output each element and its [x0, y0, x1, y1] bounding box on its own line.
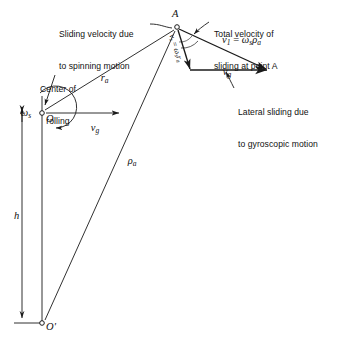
label-vg-lower: vg	[80, 112, 99, 146]
label-vg-upper: vg	[212, 56, 231, 90]
label-omega-s-sub: s	[28, 110, 31, 119]
equation-total-velocity: v1 = ωsρa	[222, 35, 261, 48]
point-label-o: O	[46, 114, 54, 125]
label-h: h	[14, 211, 19, 222]
callout-lateral-sliding-line1: Lateral sliding due	[238, 107, 318, 118]
label-omega-s: ωs	[10, 97, 31, 131]
node-oprime-marker	[40, 321, 45, 326]
label-vg-upper-sub: g	[227, 69, 231, 78]
point-label-oprime: O'	[46, 322, 56, 333]
label-ra: ra	[90, 62, 109, 96]
leader-total-velocity	[194, 22, 209, 34]
callout-lateral-sliding-line2: to gyroscopic motion	[238, 139, 318, 150]
label-rho-a-sub: a	[133, 158, 137, 167]
point-label-a: A	[172, 9, 178, 20]
node-a-marker	[175, 25, 180, 30]
callout-sliding-spin-line1: Sliding velocity due	[59, 29, 134, 40]
label-ra-sub: a	[105, 75, 109, 84]
label-rho-a: ρa	[117, 145, 137, 179]
callout-center-of-rolling-line2: rolling	[29, 116, 87, 127]
callout-lateral-sliding: Lateral sliding due to gyroscopic motion	[238, 86, 318, 170]
callout-center-of-rolling-line1: Center of	[29, 84, 87, 95]
figure-container: Sliding velocity due to spinning motion …	[0, 0, 344, 342]
leader-sliding-spin	[150, 24, 172, 28]
callout-center-of-rolling: Center of rolling	[29, 63, 87, 147]
label-vg-lower-sub: g	[95, 125, 99, 134]
equation-v1-rhs: ωsρa	[242, 34, 261, 45]
